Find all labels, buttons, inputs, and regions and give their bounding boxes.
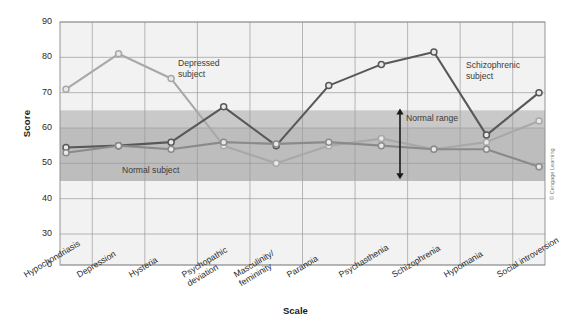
data-point [273, 160, 279, 166]
data-point [273, 141, 279, 147]
data-point [168, 76, 174, 82]
data-point [116, 143, 122, 149]
credit-text: © Cengage Learning [549, 148, 555, 200]
data-point [221, 139, 227, 145]
data-point [483, 132, 489, 138]
depressed-subject-label: Depressedsubject [178, 58, 220, 80]
data-point [536, 118, 542, 124]
data-point [378, 143, 384, 149]
data-point [536, 164, 542, 170]
y-tick-label: 90 [26, 16, 52, 26]
y-tick-label: 70 [26, 87, 52, 97]
data-point [378, 61, 384, 67]
data-point [378, 136, 384, 142]
data-point [483, 146, 489, 152]
plot-area [0, 0, 573, 327]
y-tick-label: 50 [26, 157, 52, 167]
data-point [63, 86, 69, 92]
y-tick-label: 40 [26, 193, 52, 203]
data-point [63, 150, 69, 156]
schizophrenic-subject-label: Schizophrenicsubject [466, 60, 520, 82]
data-point [536, 90, 542, 96]
data-point [168, 139, 174, 145]
mmpi-profile-chart: Score Scale 908070605040300Hypochondrias… [0, 0, 573, 327]
normal-range-label: Normal range [406, 113, 458, 124]
data-point [431, 146, 437, 152]
data-point [326, 139, 332, 145]
data-point [168, 146, 174, 152]
y-tick-label: 80 [26, 51, 52, 61]
normal-subject-label: Normal subject [122, 165, 179, 176]
data-point [483, 139, 489, 145]
data-point [326, 83, 332, 89]
y-tick-label: 60 [26, 122, 52, 132]
data-point [221, 104, 227, 110]
data-point [116, 51, 122, 57]
y-tick-label: 30 [26, 228, 52, 238]
data-point [431, 49, 437, 55]
